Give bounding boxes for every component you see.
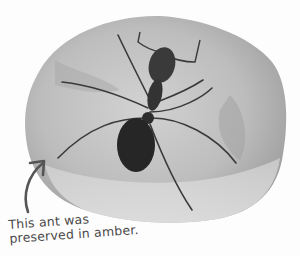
ant-abdomen [117,118,155,172]
photo-canvas: This ant was preserved in amber. [0,0,300,256]
